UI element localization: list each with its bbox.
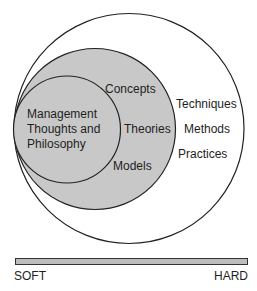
scale-label-hard: HARD bbox=[214, 269, 248, 283]
inner-label-line-3: Philosophy bbox=[27, 137, 86, 151]
outer-label-techniques: Techniques bbox=[176, 97, 237, 111]
scale-label-soft: SOFT bbox=[14, 269, 47, 283]
middle-label-concepts: Concepts bbox=[105, 82, 156, 96]
diagram-canvas: Management Thoughts and Philosophy Conce… bbox=[0, 0, 257, 291]
outer-label-methods: Methods bbox=[184, 122, 230, 136]
middle-label-models: Models bbox=[113, 159, 152, 173]
outer-label-practices: Practices bbox=[178, 147, 227, 161]
soft-hard-scale-bar bbox=[16, 259, 248, 265]
inner-label-line-2: Thoughts and bbox=[27, 122, 100, 136]
middle-label-theories: Theories bbox=[124, 122, 171, 136]
inner-label-line-1: Management bbox=[27, 107, 98, 121]
